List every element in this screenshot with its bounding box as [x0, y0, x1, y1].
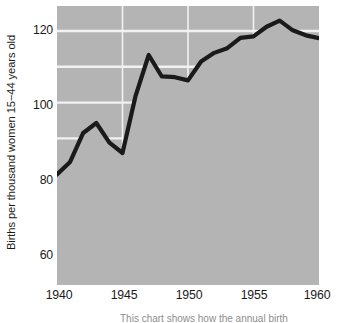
x-tick-label: 1945: [94, 288, 154, 302]
chart-canvas: [57, 6, 319, 285]
y-tick-label: 80: [15, 173, 53, 187]
x-tick-label: 1940: [29, 288, 89, 302]
plot-area: [57, 6, 319, 285]
birth-rate-area-chart: Births per thousand women 15−44 years ol…: [0, 0, 341, 323]
x-tick-label: 1950: [159, 288, 219, 302]
y-tick-label: 100: [15, 98, 53, 112]
x-tick-label: 1960: [287, 288, 341, 302]
y-axis-tick-labels: 120 100 80 60: [12, 0, 53, 323]
caption-text: This chart shows how the annual birth: [120, 312, 341, 323]
y-tick-label: 120: [15, 23, 53, 37]
x-tick-label: 1955: [224, 288, 284, 302]
x-axis-tick-labels: 1940 1945 1950 1955 1960: [0, 288, 341, 310]
y-tick-label: 60: [15, 248, 53, 262]
